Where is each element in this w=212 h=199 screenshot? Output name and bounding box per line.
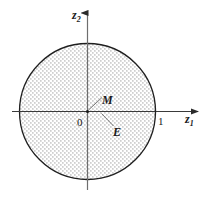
plot-canvas: z2 z1 1 0 M E bbox=[0, 0, 212, 199]
origin-label: 0 bbox=[77, 116, 83, 128]
y-axis-label: z2 bbox=[71, 8, 81, 24]
x-axis-label: z1 bbox=[184, 112, 194, 128]
region-label-e: E bbox=[112, 125, 121, 139]
x-tick-label-1: 1 bbox=[158, 115, 164, 127]
point-label-m: M bbox=[101, 93, 113, 107]
origin-point-marker bbox=[86, 110, 89, 113]
y-axis-label-subscript: 2 bbox=[76, 15, 81, 24]
x-axis-label-subscript: 1 bbox=[190, 119, 194, 128]
figure-container: z2 z1 1 0 M E bbox=[0, 0, 212, 199]
